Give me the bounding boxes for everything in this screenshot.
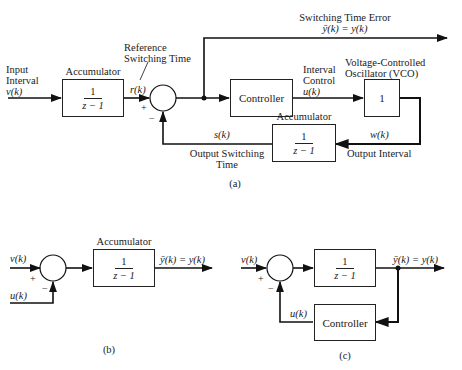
input-interval-label: Input Interval v(k) [6, 64, 39, 97]
w-signal-label: w(k) [370, 129, 389, 140]
r-signal-label: r(k) [130, 84, 146, 95]
accumulator-b-block: 1 z − 1 [93, 249, 155, 287]
accumulator-top-title: Accumulator [62, 66, 124, 77]
accumulator-bottom-block: 1 z − 1 [272, 124, 336, 162]
summer-circle-c [267, 255, 293, 281]
summer-circle-a [150, 85, 176, 111]
caption-a: (a) [220, 178, 250, 189]
caption-c: (c) [330, 350, 360, 361]
output-label-c: ȳ(k) = y(k) [393, 254, 438, 265]
s-signal-label: s(k) [214, 129, 230, 140]
switching-time-error-label: Switching Time Error ȳ(k) = y(k) [270, 12, 420, 34]
vco-block: 1 [364, 79, 400, 117]
output-switching-time-label: Output Switching Time [182, 148, 272, 170]
accumulator-top-block: 1 z − 1 [62, 79, 124, 117]
controller-block-c: Controller [314, 304, 376, 341]
accumulator-b-title: Accumulator [93, 236, 155, 247]
minus-sign-b: − [42, 283, 48, 294]
output-label-b: ȳ(k) = y(k) [160, 254, 205, 265]
reference-switching-time-label: Reference Switching Time [124, 42, 191, 64]
v-signal-label-c: v(k) [241, 254, 257, 265]
accumulator-bottom-title: Accumulator [272, 111, 336, 122]
u-signal-label-b: u(k) [10, 290, 27, 301]
caption-b: (b) [94, 344, 124, 355]
minus-sign-a: − [149, 113, 155, 124]
output-interval-label: Output Interval [347, 148, 411, 159]
v-signal-label-b: v(k) [10, 253, 26, 264]
summer-circle-b [40, 255, 66, 281]
reference-pointer [140, 62, 148, 80]
plus-sign-a: + [141, 102, 147, 113]
plus-sign-b: + [30, 273, 36, 284]
vco-label: Voltage-Controlled Oscillator (VCO) [345, 57, 425, 79]
junction-dot-c [396, 266, 401, 271]
integrator-c-block: 1 z − 1 [314, 249, 376, 287]
junction-dot-a [202, 96, 207, 101]
plus-sign-c: + [258, 273, 264, 284]
interval-control-label: Interval Control u(k) [303, 64, 336, 97]
minus-sign-c: − [268, 283, 274, 294]
u-signal-label-c: u(k) [290, 308, 307, 319]
